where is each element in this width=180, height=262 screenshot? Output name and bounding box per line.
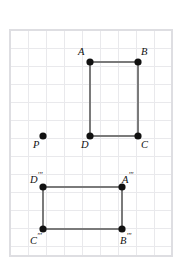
label-prime-marks: ′′′ xyxy=(128,171,133,180)
label-letter: C xyxy=(141,139,148,150)
vertex-label-a: A xyxy=(78,47,84,58)
label-letter: B xyxy=(141,46,147,57)
label-prime-marks: ′′′ xyxy=(126,232,131,241)
vertex-label-b3: B′′′ xyxy=(120,233,131,246)
polygon-edges-layer xyxy=(43,62,138,229)
rectangle-abcd xyxy=(90,62,138,136)
vertex-label-d3: D′′′ xyxy=(30,172,42,185)
vertex-label-b: B xyxy=(141,47,147,58)
vertex-label-a3: A′′′ xyxy=(122,172,133,185)
label-letter: A xyxy=(78,46,84,57)
vertex-label-c: C xyxy=(141,140,148,151)
vertex-label-p: P xyxy=(33,140,39,151)
label-letter: P xyxy=(33,139,39,150)
label-prime-marks: ′′′ xyxy=(38,171,43,180)
vertex-dot-a xyxy=(86,58,93,65)
vertex-dot-p xyxy=(39,132,46,139)
vertex-label-c3: C′′′ xyxy=(30,233,42,246)
vertex-label-d: D xyxy=(81,140,89,151)
label-letter: D xyxy=(81,139,89,150)
label-letter: C xyxy=(30,235,37,246)
geometry-figure: ABCDD′′′A′′′B′′′C′′′P xyxy=(0,0,180,262)
vertex-dot-b xyxy=(134,58,141,65)
figure-canvas xyxy=(0,0,180,262)
vertex-dot-b3 xyxy=(118,225,125,232)
label-prime-marks: ′′′ xyxy=(37,232,42,241)
label-letter: D xyxy=(30,174,38,185)
